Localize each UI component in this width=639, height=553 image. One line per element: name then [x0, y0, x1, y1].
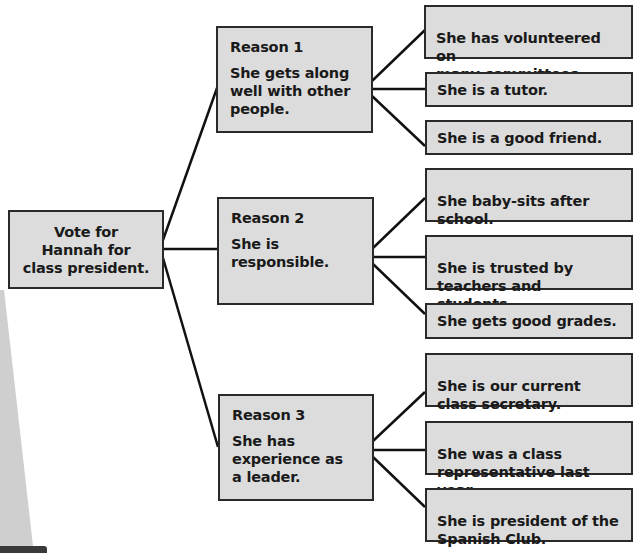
detail-text: She gets good grades. [437, 312, 617, 330]
detail-box: She baby-sits after school. [425, 168, 633, 222]
connector-reason-3-detail-3 [373, 457, 425, 507]
detail-text: She is a good friend. [437, 129, 602, 147]
reason-text: She gets along well with other people. [230, 64, 361, 118]
connector-reason-2-detail-1 [373, 198, 425, 248]
detail-box: She is a good friend. [425, 120, 633, 155]
detail-box: She is trusted by teachers and students. [425, 235, 633, 290]
detail-text: She is a tutor. [437, 81, 548, 99]
detail-text: She is our current class secretary. [437, 378, 581, 412]
detail-box: She is a tutor. [425, 72, 633, 107]
detail-box: She has volunteered on many committees. [424, 5, 633, 59]
connector-root-reason-1 [163, 88, 217, 240]
connector-reason-2-detail-3 [373, 264, 425, 314]
idea-tree-diagram: Vote for Hannah for class president. Rea… [0, 0, 639, 553]
main-idea-box: Vote for Hannah for class president. [8, 210, 164, 289]
detail-box: She was a class representative last year… [425, 421, 633, 475]
reason-title: Reason 3 [232, 406, 362, 424]
connector-reason-1-detail-1 [372, 30, 425, 81]
reason-title: Reason 1 [230, 38, 361, 56]
connector-reason-3-detail-1 [373, 392, 425, 441]
reason-box-1: Reason 1 She gets along well with other … [216, 26, 373, 133]
detail-text: She baby-sits after school. [437, 193, 589, 227]
detail-box: She gets good grades. [425, 303, 633, 339]
main-idea-text: Vote for Hannah for class president. [23, 223, 149, 277]
connector-root-reason-3 [163, 258, 218, 447]
detail-text: She is president of the Spanish Club. [437, 513, 619, 547]
reason-box-3: Reason 3 She has experience as a leader. [218, 394, 374, 501]
detail-box: She is president of the Spanish Club. [425, 488, 633, 542]
reason-text: She has experience as a leader. [232, 432, 362, 486]
reason-box-2: Reason 2 She is responsible. [217, 197, 374, 305]
detail-box: She is our current class secretary. [425, 353, 633, 407]
connector-reason-1-detail-3 [372, 96, 425, 146]
reason-text: She is responsible. [231, 235, 362, 271]
reason-title: Reason 2 [231, 209, 362, 227]
